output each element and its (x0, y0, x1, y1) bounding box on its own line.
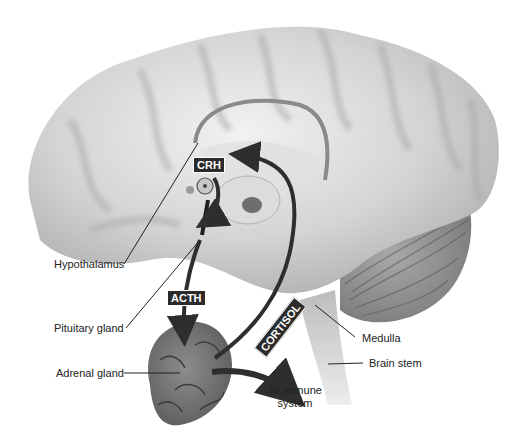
brain-stem-label: Brain stem (369, 357, 422, 370)
hpa-axis-diagram: CRH ACTH CORTISOL Hypothalamus Pituitary… (0, 0, 519, 446)
crh-tag: CRH (193, 157, 225, 173)
to-immune-system-label: To immune system (262, 384, 328, 410)
adrenal-gland-label: Adrenal gland (56, 367, 124, 380)
to-immune-line2: system (262, 397, 328, 410)
hypothalamus-label: Hypothalamus (54, 258, 124, 271)
medulla-label: Medulla (362, 332, 401, 345)
to-immune-line1: To immune (262, 384, 328, 397)
acth-tag: ACTH (167, 290, 206, 306)
pituitary-gland-label: Pituitary gland (54, 322, 124, 335)
